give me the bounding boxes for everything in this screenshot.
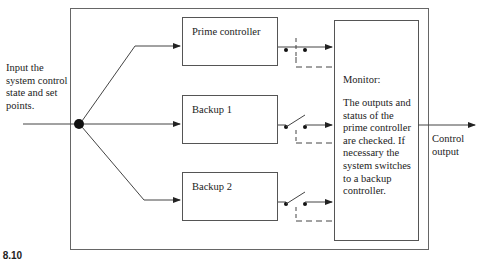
- monitor-title: Monitor:: [343, 74, 380, 87]
- prime-switch-closed: [278, 38, 334, 67]
- backup1-label: Backup 1: [192, 104, 232, 117]
- backup1-box: [183, 96, 278, 144]
- branch-to-backup2: [82, 127, 180, 200]
- backup2-box: [183, 173, 278, 221]
- backup2-label: Backup 2: [192, 181, 232, 194]
- prime-controller-box: [183, 18, 278, 66]
- branch-to-prime: [82, 46, 180, 121]
- monitor-description: The outputs and status of the prime cont…: [343, 97, 411, 198]
- input-label: Input the system control state and set p…: [6, 62, 68, 112]
- backup1-switch-open: [278, 115, 334, 143]
- backup2-switch-open: [278, 192, 334, 221]
- figure-caption: RE 8.10: [0, 250, 22, 261]
- control-output-label: Control output: [432, 133, 464, 158]
- prime-controller-label: Prime controller: [192, 26, 261, 39]
